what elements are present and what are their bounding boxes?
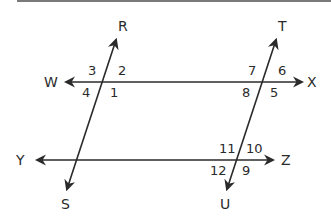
point-label-w: W [44,74,58,90]
angle-label-8: 8 [242,85,250,100]
point-label-x: X [307,74,317,90]
angle-label-1: 1 [110,85,118,100]
diagram-canvas: R W S Y T X U Z 3 2 4 1 7 6 8 5 11 10 12… [0,0,331,217]
point-label-y: Y [15,152,25,168]
point-label-r: R [118,18,128,34]
angle-label-11: 11 [219,141,236,156]
point-label-z: Z [281,152,291,168]
angle-label-3: 3 [88,63,96,78]
angle-label-5: 5 [270,85,278,100]
angle-label-12: 12 [210,163,227,178]
angle-label-6: 6 [278,63,286,78]
point-label-u: U [220,196,230,212]
angle-label-2: 2 [118,63,126,78]
angle-label-4: 4 [82,85,90,100]
angle-label-7: 7 [248,63,256,78]
point-label-s: S [61,196,70,212]
angle-label-10: 10 [246,141,263,156]
angle-label-9: 9 [242,163,250,178]
point-label-t: T [277,18,287,34]
parallel-lines-diagram: R W S Y T X U Z 3 2 4 1 7 6 8 5 11 10 12… [0,0,331,217]
